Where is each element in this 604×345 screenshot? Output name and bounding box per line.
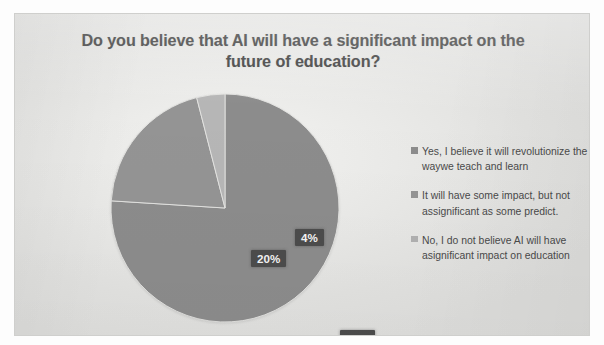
legend-item-yes: Yes, I believe it will revolutionize the… [411, 144, 590, 174]
data-label-slice-4: 4% [295, 229, 324, 246]
scanned-page: Do you believe that AI will have a signi… [0, 0, 604, 345]
legend-swatch-icon [411, 236, 418, 243]
pie-chart: 4% 20% 76% [109, 92, 341, 324]
chart-title-line-2: future of education? [226, 52, 380, 70]
legend-item-some-impact: It will have some impact, but not assign… [411, 188, 590, 218]
legend-item-no: No, I do not believe AI will have asigni… [411, 233, 590, 263]
legend-swatch-icon [411, 191, 418, 198]
data-label-slice-20: 20% [251, 250, 286, 267]
legend-label: It will have some impact, but not assign… [422, 188, 590, 218]
pie-chart-svg [109, 92, 341, 324]
legend-label: No, I do not believe AI will have asigni… [422, 233, 590, 263]
data-label-slice-76: 76% [340, 330, 375, 336]
legend-swatch-icon [411, 147, 418, 154]
pie-slice-group [111, 94, 339, 322]
legend-label: Yes, I believe it will revolutionize the… [422, 144, 590, 174]
chart-legend: Yes, I believe it will revolutionize the… [411, 144, 590, 263]
chart-panel: Do you believe that AI will have a signi… [14, 13, 590, 336]
chart-title: Do you believe that AI will have a signi… [61, 30, 545, 73]
chart-title-line-1: Do you believe that AI will have a signi… [81, 31, 524, 49]
